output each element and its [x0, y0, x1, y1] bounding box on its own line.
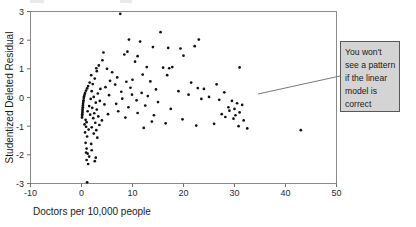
data-point: [131, 78, 134, 81]
data-point: [89, 113, 92, 116]
data-point: [86, 110, 89, 113]
data-point: [108, 94, 111, 97]
x-tick-50: 50: [331, 188, 341, 198]
x-tick-20: 20: [178, 188, 188, 198]
data-point: [91, 106, 94, 109]
data-point: [99, 100, 102, 103]
plot-frame: [31, 12, 337, 184]
data-point: [109, 80, 112, 83]
data-point: [145, 66, 148, 69]
data-point: [84, 141, 87, 144]
data-point: [117, 110, 120, 113]
data-point: [96, 92, 99, 95]
data-point: [187, 93, 190, 96]
data-point: [153, 114, 156, 117]
data-point: [98, 124, 101, 127]
data-point: [237, 125, 240, 128]
data-point: [99, 88, 102, 91]
data-point: [97, 115, 100, 118]
annotation-callout: You won't see a pattern if the linear mo…: [341, 42, 400, 112]
callout-line-2: see a pattern: [345, 60, 395, 70]
data-point: [96, 136, 99, 139]
y-axis: 3 2 1 0 -1 -2 -3: [16, 7, 31, 189]
data-point: [169, 108, 172, 111]
data-point: [85, 159, 88, 162]
data-point: [90, 126, 93, 129]
data-point: [95, 108, 98, 111]
callout-leader-line: [258, 76, 340, 94]
data-point: [95, 129, 98, 132]
data-point: [88, 81, 91, 84]
data-point: [228, 109, 231, 112]
data-point: [81, 116, 84, 119]
data-point: [124, 116, 127, 119]
data-point: [104, 86, 107, 89]
data-point: [128, 38, 131, 41]
data-point: [179, 47, 182, 50]
data-point: [140, 92, 143, 95]
data-point: [135, 99, 138, 102]
data-point: [92, 132, 95, 135]
data-point: [200, 98, 203, 101]
data-point: [234, 114, 237, 117]
data-point: [139, 40, 142, 43]
data-point: [85, 125, 88, 128]
data-point: [149, 80, 152, 83]
data-point: [136, 55, 139, 58]
scatter-plot-figure: 3 2 1 0 -1 -2 -3 -10 0 10 20 30 40 50: [0, 0, 416, 227]
data-point: [197, 38, 200, 41]
data-point: [89, 98, 92, 101]
callout-line-5: correct: [345, 99, 372, 109]
data-point: [155, 88, 158, 91]
x-tick-30: 30: [229, 188, 239, 198]
x-tick-10: 10: [127, 188, 137, 198]
x-tick-0: 0: [79, 188, 84, 198]
data-point: [168, 67, 171, 70]
data-point: [181, 118, 184, 121]
data-point: [182, 54, 185, 57]
data-point: [177, 90, 180, 93]
data-point: [84, 131, 87, 134]
data-point: [227, 106, 230, 109]
data-point: [223, 91, 226, 94]
data-point: [88, 105, 91, 108]
x-axis: -10 0 10 20 30 40 50: [24, 184, 342, 199]
data-point: [129, 86, 132, 89]
data-point: [152, 46, 155, 49]
data-point: [90, 74, 93, 77]
data-point: [106, 67, 109, 70]
data-point: [232, 117, 235, 120]
y-tick-3: 3: [19, 7, 24, 17]
y-tick-2: 2: [19, 36, 24, 46]
data-point: [246, 127, 249, 130]
data-point: [220, 113, 223, 116]
data-point: [86, 135, 89, 138]
data-point: [94, 101, 97, 104]
data-point: [215, 83, 218, 86]
data-point: [208, 96, 211, 99]
data-point: [127, 106, 130, 109]
data-point: [102, 51, 105, 54]
y-tick-1: 1: [19, 64, 24, 74]
data-point: [299, 129, 302, 132]
callout-line-1: You won't: [345, 47, 382, 57]
data-point: [103, 103, 106, 106]
data-point: [231, 100, 234, 103]
data-point: [236, 102, 239, 105]
data-point: [95, 70, 98, 73]
data-point: [95, 67, 98, 70]
data-point: [233, 108, 236, 111]
data-point: [166, 74, 169, 77]
y-tick-neg3: -3: [16, 179, 24, 189]
data-point: [94, 156, 97, 159]
data-point: [195, 124, 198, 127]
y-tick-neg1: -1: [16, 122, 24, 132]
y-tick-neg2: -2: [16, 150, 24, 160]
data-point: [242, 119, 245, 122]
data-point: [162, 66, 165, 69]
data-point: [90, 149, 93, 152]
data-point: [93, 77, 96, 80]
data-point: [224, 116, 227, 119]
data-point: [213, 123, 216, 126]
data-point: [167, 47, 170, 50]
